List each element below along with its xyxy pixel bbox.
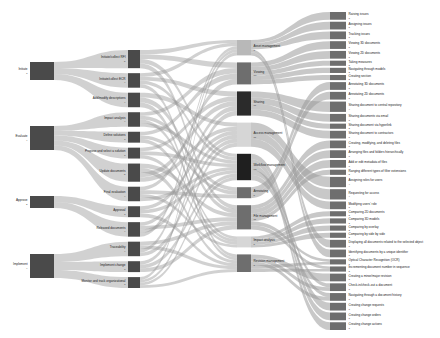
node-label-annotating_2d: Annotating 2D documents [349, 92, 385, 96]
sankey-node-creating_change_req[interactable] [330, 303, 346, 311]
sankey-node-crud_files[interactable] [330, 141, 346, 149]
sankey-node-revision_management[interactable] [237, 254, 251, 272]
node-label-assigning_roles: Assigning roles for users [349, 178, 383, 182]
node-label-evaluate: Evaluate [15, 134, 27, 138]
sankey-node-viewing_2d[interactable] [330, 51, 346, 59]
sankey-node-sharing[interactable] [237, 91, 251, 115]
node-label-raising_issues: Raising issues [349, 12, 369, 16]
node-label-viewing_3d: Viewing 3D documents [349, 41, 381, 45]
sankey-node-sharing_contractors[interactable] [330, 131, 346, 139]
sankey-node-identifying_unique_id[interactable] [330, 250, 346, 258]
sankey-node-sharing_hyperlink[interactable] [330, 124, 346, 129]
node-label-access_management: Access management [254, 131, 283, 135]
sankey-node-raising_issues[interactable] [330, 12, 346, 20]
sankey-node-taking_measures[interactable] [330, 61, 346, 66]
sankey-node-navigating_models[interactable] [330, 68, 346, 73]
sankey-node-creating_change_ord[interactable] [330, 313, 346, 321]
node-label-creating_change_act: Creating change actions [349, 322, 383, 326]
node-label-propose_select: Propose and select a solution [85, 149, 126, 153]
node-label-arranging_files: Arranging files and folders hierarchical… [349, 150, 404, 154]
node-label-implement_change: Implement change [100, 263, 126, 267]
node-label-initiate_collect_ecr: Initiate/collect ECR [99, 77, 126, 81]
sankey-node-requesting_access[interactable] [330, 189, 346, 199]
sankey-node-access_management[interactable] [237, 123, 251, 147]
node-label-creating_section: Creating section [349, 74, 372, 78]
node-label-approve: Approve [16, 198, 28, 202]
node-label-annotating: Annotating [254, 189, 269, 193]
node-label-initiate: Initiate [18, 67, 27, 71]
sankey-node-sharing_email[interactable] [330, 114, 346, 122]
node-label-approval: Approval [113, 208, 126, 212]
node-label-creating_revision: Creating a minor/major revision [349, 274, 392, 278]
node-label-edit_metadata: Add or edit metadata of files [349, 160, 388, 164]
node-label-navigating_models: Navigating through models [349, 67, 386, 71]
sankey-node-navigating_history[interactable] [330, 293, 346, 301]
sankey-node-comparing_3d[interactable] [330, 218, 346, 223]
sankey-node-monitor_track[interactable] [128, 277, 140, 288]
sankey-node-approval[interactable] [128, 206, 140, 217]
sankey-node-evaluate[interactable] [30, 126, 54, 150]
sankey-node-update_documents[interactable] [128, 164, 140, 182]
node-label-revision_management: Revision management [254, 259, 285, 263]
node-label-traceability: Traceability [110, 245, 126, 249]
sankey-node-annotating[interactable] [237, 187, 251, 198]
sankey-diagram-canvas: Initiate3Evaluate4Approve2Implement4Init… [0, 0, 440, 338]
node-label-impact_analysis_cap: Impact analysis [254, 238, 276, 242]
node-label-workflow_management: Workflow management [254, 163, 286, 167]
sankey-node-initiate_collect_rfi[interactable] [128, 50, 140, 68]
sankey-node-initiate_collect_ecr[interactable] [128, 73, 140, 88]
sankey-node-tracking_issues[interactable] [330, 31, 346, 39]
sankey-node-ranging_filetypes[interactable] [330, 170, 346, 175]
node-label-comparing_3d: Comparing 3D models [349, 217, 380, 221]
sankey-node-check_in_out[interactable] [330, 283, 346, 291]
node-label-taking_measures: Taking measures [349, 60, 373, 64]
sankey-node-comparing_2d[interactable] [330, 211, 346, 216]
sankey-node-propose_select[interactable] [128, 148, 140, 159]
node-label-sharing_email: Sharing documents via email [349, 114, 389, 118]
sankey-node-incrementing_number[interactable] [330, 266, 346, 271]
sankey-node-displaying_related[interactable] [330, 240, 346, 248]
node-label-assigning_issues: Assigning issues [349, 22, 372, 26]
sankey-node-annotating_2d[interactable] [330, 92, 346, 100]
sankey-node-impact_analysis_act[interactable] [128, 112, 140, 127]
sankey-node-released_documents[interactable] [128, 222, 140, 237]
sankey-node-annotating_3d[interactable] [330, 82, 346, 90]
sankey-node-edit_metadata[interactable] [330, 160, 346, 168]
node-label-add_modify_desc: Add/modify descriptions [93, 96, 126, 100]
sankey-node-creating_section[interactable] [330, 75, 346, 80]
sankey-node-approve[interactable] [30, 196, 54, 208]
sankey-node-implement[interactable] [30, 254, 54, 278]
sankey-node-assigning_roles[interactable] [330, 177, 346, 187]
sankey-node-viewing[interactable] [237, 62, 251, 84]
node-label-navigating_history: Navigating through a document history [349, 293, 402, 297]
sankey-node-file_management[interactable] [237, 205, 251, 229]
node-label-check_in_out: Check-in/check-out a document [349, 283, 393, 287]
node-label-initiate_collect_rfi: Initiate/collect RFI [101, 55, 126, 59]
sankey-node-modifying_role[interactable] [330, 201, 346, 209]
sankey-node-final_evaluation[interactable] [128, 187, 140, 202]
sankey-node-creating_change_act[interactable] [330, 322, 346, 330]
node-label-implement: Implement [13, 262, 28, 266]
sankey-node-creating_revision[interactable] [330, 274, 346, 282]
sankey-node-assigning_issues[interactable] [330, 22, 346, 30]
node-label-monitor_track: Monitor and track organizational [81, 279, 125, 283]
node-label-requesting_access: Requesting for access [349, 191, 380, 195]
sankey-node-ocr[interactable] [330, 259, 346, 264]
sankey-node-initiate[interactable] [30, 62, 54, 80]
sankey-node-asset_management[interactable] [237, 40, 251, 55]
sankey-node-define_solutions[interactable] [128, 132, 140, 143]
sankey-node-impact_analysis_cap[interactable] [237, 236, 251, 247]
node-label-creating_change_ord: Creating change orders [349, 313, 382, 317]
sankey-node-implement_change[interactable] [128, 261, 140, 272]
sankey-node-sharing_central_repo[interactable] [330, 102, 346, 112]
sankey-node-arranging_files[interactable] [330, 150, 346, 158]
sankey-node-comparing_overlay[interactable] [330, 226, 346, 231]
sankey-node-viewing_3d[interactable] [330, 41, 346, 49]
sankey-node-add_modify_desc[interactable] [128, 93, 140, 108]
node-label-crud_files: Creating, modifying, and deleting files [349, 141, 401, 145]
node-label-sharing_contractors: Sharing document to contractors [349, 131, 394, 135]
sankey-svg: Initiate3Evaluate4Approve2Implement4Init… [0, 0, 440, 338]
sankey-node-workflow_management[interactable] [237, 154, 251, 180]
sankey-node-traceability[interactable] [128, 242, 140, 257]
sankey-node-comparing_side[interactable] [330, 233, 346, 238]
